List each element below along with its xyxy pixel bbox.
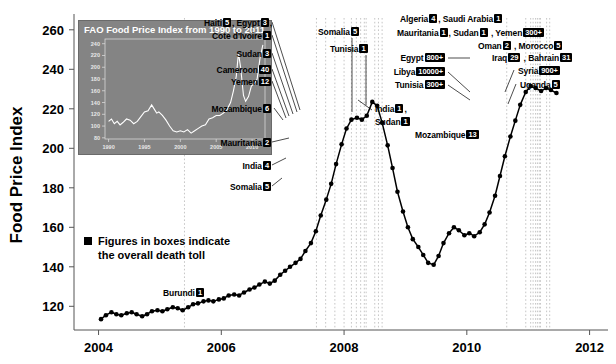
data-point bbox=[217, 297, 222, 302]
legend-note: Figures in boxes indicate the overall de… bbox=[84, 234, 230, 262]
annotation-leader-line bbox=[272, 138, 289, 142]
data-point bbox=[554, 91, 559, 96]
data-point bbox=[283, 268, 288, 273]
data-point bbox=[129, 310, 134, 315]
data-point bbox=[140, 314, 145, 319]
x-tick-label: 2008 bbox=[330, 340, 359, 355]
data-point bbox=[457, 228, 462, 233]
data-point bbox=[360, 117, 365, 122]
y-tick-label: 240 bbox=[42, 62, 64, 77]
data-point bbox=[247, 287, 252, 292]
data-point bbox=[436, 254, 441, 259]
annotation-india-2007: India4 bbox=[150, 161, 272, 172]
y-tick-label: 260 bbox=[42, 23, 64, 38]
data-point bbox=[518, 103, 523, 108]
data-point bbox=[309, 241, 314, 246]
data-point bbox=[452, 225, 457, 230]
x-tick-label: 2006 bbox=[207, 340, 236, 355]
data-point bbox=[232, 292, 237, 297]
data-point bbox=[355, 115, 360, 120]
data-point bbox=[272, 278, 277, 283]
data-point bbox=[160, 309, 165, 314]
annotation-somalia-2007: Somalia5 bbox=[150, 182, 272, 193]
annotation-tunisia-2011: Tunisia300+ bbox=[350, 80, 446, 91]
inset-y-tick: 220 bbox=[91, 52, 100, 58]
x-tick-label: 2004 bbox=[84, 340, 114, 355]
annotation-burundi: Burundi1 bbox=[163, 288, 205, 299]
annotation-cote-divoire: Cote d'Ivoire1 bbox=[150, 31, 272, 42]
data-point bbox=[401, 209, 406, 214]
annotation-iraq-bahrain: Iraq29 , Bahrain31 bbox=[492, 53, 573, 64]
data-point bbox=[298, 257, 303, 262]
annotation-sudan-2008: Sudan3 bbox=[150, 49, 272, 60]
data-point bbox=[196, 301, 201, 306]
legend-square-icon bbox=[84, 237, 92, 245]
y-tick-label: 140 bbox=[42, 260, 64, 275]
data-point bbox=[99, 317, 104, 322]
data-point bbox=[482, 222, 487, 227]
data-point bbox=[165, 307, 170, 312]
annotation-oman-morocco: Oman2 , Morocco5 bbox=[478, 41, 563, 52]
data-point bbox=[339, 142, 344, 147]
data-point bbox=[191, 302, 196, 307]
data-point bbox=[472, 234, 477, 239]
annotation-libya-2011: Libya10000+ bbox=[350, 67, 446, 78]
data-point bbox=[513, 118, 518, 123]
x-tick-label: 2010 bbox=[452, 340, 481, 355]
data-point bbox=[318, 213, 323, 218]
data-point bbox=[390, 166, 395, 171]
annotation-uganda: Uganda5 bbox=[520, 80, 561, 91]
inset-x-tick: 1990 bbox=[102, 144, 114, 150]
annotation-leader-line bbox=[448, 72, 470, 92]
annotation-leader-line bbox=[272, 158, 286, 165]
annotation-syria: Syria900+ bbox=[518, 66, 561, 77]
data-point bbox=[114, 312, 119, 317]
data-point bbox=[406, 225, 411, 230]
annotation-leader-line bbox=[272, 178, 282, 186]
annotation-leader-line bbox=[274, 108, 283, 120]
data-point bbox=[462, 233, 467, 238]
data-point bbox=[206, 298, 211, 303]
data-point bbox=[334, 162, 339, 167]
annotation-india-2008: India1, bbox=[375, 104, 407, 115]
data-point bbox=[278, 272, 283, 277]
data-point bbox=[416, 245, 421, 250]
data-point bbox=[134, 312, 139, 317]
inset-y-tick: 180 bbox=[91, 76, 100, 82]
annotation-leader-line bbox=[272, 53, 293, 114]
inset-y-tick: 80 bbox=[94, 135, 100, 141]
data-point bbox=[237, 293, 242, 298]
data-point bbox=[150, 309, 155, 314]
inset-y-tick: 120 bbox=[91, 111, 100, 117]
annotation-mauritania-sudan-yemen: Mauritania1, Sudan1 , Yemen300+ bbox=[397, 28, 545, 39]
y-tick-label: 180 bbox=[42, 181, 64, 196]
data-point bbox=[349, 117, 354, 122]
data-point bbox=[477, 230, 482, 235]
data-point bbox=[467, 231, 472, 236]
inset-y-tick: 200 bbox=[91, 64, 100, 70]
data-point bbox=[171, 305, 176, 310]
data-point bbox=[498, 174, 503, 179]
data-point bbox=[431, 263, 436, 268]
data-point bbox=[329, 182, 334, 187]
annotation-algeria-saudi: Algeria4, Saudi Arabia1 bbox=[400, 14, 503, 25]
data-point bbox=[221, 296, 226, 301]
data-point bbox=[324, 197, 329, 202]
annotation-sudan-b-2008: Sudan1 bbox=[375, 117, 411, 128]
inset-y-tick: 140 bbox=[91, 100, 100, 106]
data-point bbox=[186, 305, 191, 310]
data-point bbox=[201, 299, 206, 304]
inset-y-tick: 240 bbox=[91, 41, 100, 47]
data-point bbox=[411, 237, 416, 242]
inset-x-tick: 1995 bbox=[138, 144, 150, 150]
data-point bbox=[119, 313, 124, 318]
legend-line-1: Figures in boxes indicate bbox=[98, 235, 230, 247]
data-point bbox=[364, 113, 369, 118]
annotation-leader-line bbox=[508, 84, 516, 104]
annotation-yemen-2008: Yemen12 bbox=[150, 77, 272, 88]
y-tick-label: 200 bbox=[42, 141, 64, 156]
y-tick-label: 120 bbox=[42, 299, 64, 314]
data-point bbox=[487, 210, 492, 215]
food-price-index-chart: 120140160180200220240260Food Price Index… bbox=[0, 0, 616, 364]
data-point bbox=[268, 281, 273, 286]
